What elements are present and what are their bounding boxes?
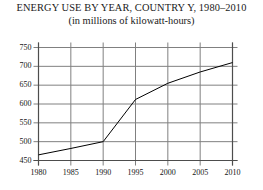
y-tick-label: 700 bbox=[2, 62, 32, 70]
y-tick-label: 650 bbox=[2, 81, 32, 89]
y-tick-label: 500 bbox=[2, 138, 32, 146]
plot-area: 750700650600550500450 198019851990199520… bbox=[0, 0, 263, 190]
grid-lines bbox=[34, 43, 238, 166]
y-tick-label: 550 bbox=[2, 119, 32, 127]
y-tick-label: 450 bbox=[2, 157, 32, 165]
y-tick-label: 750 bbox=[2, 44, 32, 52]
y-tick-label: 600 bbox=[2, 100, 32, 108]
chart-canvas bbox=[0, 0, 263, 190]
x-tick-label: 2010 bbox=[213, 169, 253, 177]
energy-use-line-chart: ENERGY USE BY YEAR, COUNTRY Y, 1980–2010… bbox=[0, 0, 263, 190]
